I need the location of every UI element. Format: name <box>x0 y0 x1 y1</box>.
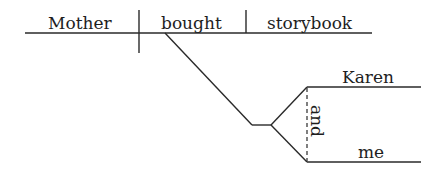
indirect-object-diagonal <box>165 33 252 125</box>
conjunction-word: and <box>307 105 327 137</box>
indirect-object-me: me <box>358 142 384 162</box>
verb-word: bought <box>161 13 222 33</box>
object-word: storybook <box>267 13 353 33</box>
diagram-canvas: Mother bought storybook Karen me and <box>0 0 436 176</box>
fork-lower <box>271 125 307 162</box>
fork-upper <box>271 87 307 125</box>
indirect-object-karen: Karen <box>342 67 394 87</box>
sentence-diagram: Mother bought storybook Karen me and <box>0 0 436 176</box>
subject-word: Mother <box>48 13 112 33</box>
